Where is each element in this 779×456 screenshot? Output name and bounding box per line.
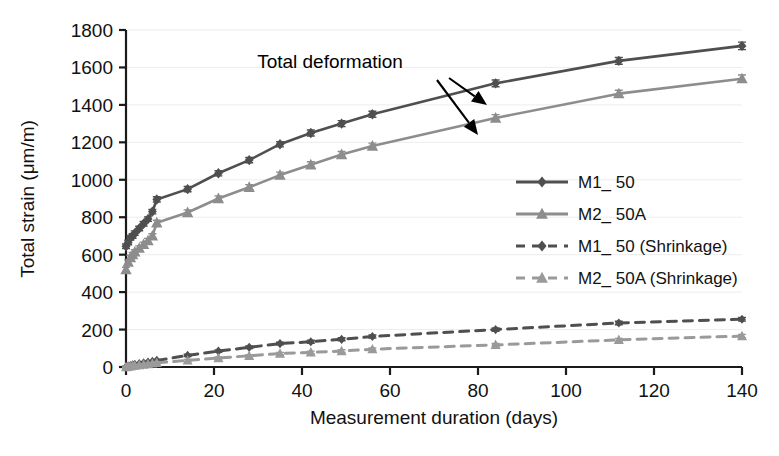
legend-label: M2_ 50A [578, 205, 647, 224]
y-tick-label: 1200 [71, 132, 113, 153]
y-tick-label: 0 [102, 357, 113, 378]
x-tick-label: 0 [121, 380, 132, 401]
y-tick-label: 400 [81, 282, 113, 303]
x-tick-label: 60 [379, 380, 400, 401]
annotation-label: Total deformation [257, 51, 403, 72]
x-tick-label: 80 [467, 380, 488, 401]
y-axis-title: Total strain (μm/m) [17, 120, 38, 278]
y-tick-label: 1800 [71, 20, 113, 41]
x-tick-label: 40 [291, 380, 312, 401]
x-tick-label: 100 [550, 380, 582, 401]
legend-label: M2_ 50A (Shrinkage) [578, 269, 738, 288]
y-tick-label: 800 [81, 207, 113, 228]
y-tick-label: 200 [81, 320, 113, 341]
x-tick-label: 140 [726, 380, 758, 401]
y-tick-label: 1400 [71, 95, 113, 116]
x-tick-label: 20 [203, 380, 224, 401]
y-tick-label: 600 [81, 245, 113, 266]
y-tick-label: 1000 [71, 170, 113, 191]
chart-container: 020040060080010001200140016001800 020406… [0, 0, 779, 456]
strain-vs-duration-line-chart: 020040060080010001200140016001800 020406… [0, 0, 779, 456]
legend-label: M1_ 50 [578, 173, 635, 192]
x-axis-title: Measurement duration (days) [310, 407, 558, 428]
legend-label: M1_ 50 (Shrinkage) [578, 237, 727, 256]
y-tick-label: 1600 [71, 57, 113, 78]
x-tick-label: 120 [638, 380, 670, 401]
